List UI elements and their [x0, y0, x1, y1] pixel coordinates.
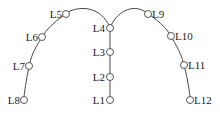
node-circle-icon — [181, 62, 188, 69]
node-label: L2 — [93, 71, 105, 83]
node-label: L12 — [194, 94, 212, 106]
node-circle-icon — [39, 34, 46, 41]
node-circle-icon — [168, 33, 175, 40]
node-circle-icon — [26, 63, 33, 70]
node-circle-icon — [107, 74, 114, 81]
node-label: L11 — [188, 59, 205, 71]
node-circle-icon — [107, 49, 114, 56]
node-label: L3 — [93, 46, 106, 58]
node-circle-icon — [187, 97, 194, 104]
node-circle-icon — [107, 25, 114, 32]
node-label: L8 — [8, 94, 21, 106]
node-label: L6 — [26, 31, 39, 43]
node-circle-icon — [145, 11, 152, 18]
node-label: L4 — [93, 22, 106, 34]
node-label: L9 — [152, 8, 165, 20]
node-label: L1 — [93, 94, 105, 106]
node-label: L10 — [175, 30, 193, 42]
node-label: L5 — [50, 8, 63, 20]
node-circle-icon — [63, 11, 70, 18]
node-circle-icon — [107, 97, 114, 104]
node-circle-icon — [21, 97, 28, 104]
node-L5: L5 — [50, 8, 70, 20]
node-L7: L7 — [13, 60, 33, 72]
node-L6: L6 — [26, 31, 46, 43]
node-L9: L9 — [145, 8, 165, 20]
node-label: L7 — [13, 60, 26, 72]
node-L10: L10 — [168, 30, 194, 42]
right-arc-edge — [110, 8, 190, 97]
node-L11: L11 — [181, 59, 206, 71]
arc-diagram: L1 L2 L3 L4 L5 L6 L7 L8 L9 L10 L11 — [0, 0, 220, 117]
